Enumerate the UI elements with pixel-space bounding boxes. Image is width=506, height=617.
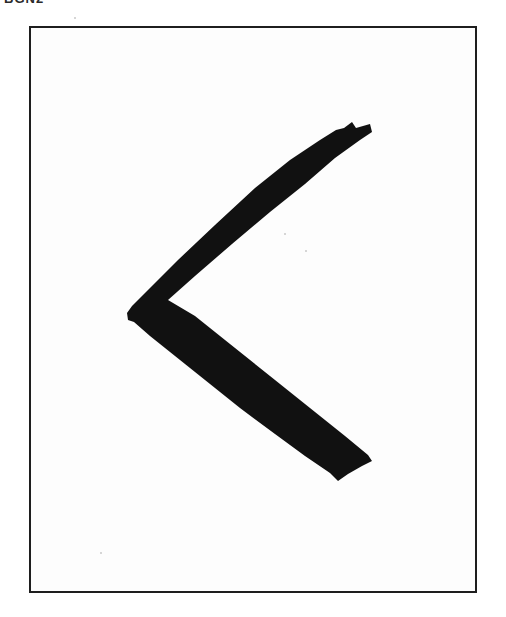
scan-speck — [74, 17, 76, 19]
scan-speck — [305, 250, 307, 252]
scan-speck — [100, 552, 102, 554]
scan-speck — [284, 233, 286, 235]
kaun-rune-icon — [0, 0, 506, 617]
rune-stroke — [127, 122, 372, 481]
